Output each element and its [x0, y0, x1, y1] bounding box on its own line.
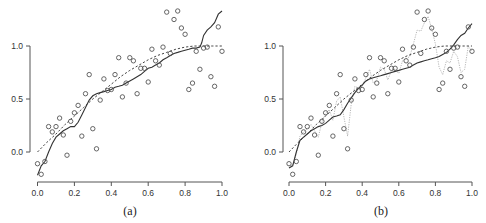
- data-point: [194, 49, 198, 53]
- smooth-fit-curve: [289, 24, 472, 168]
- data-point: [309, 116, 313, 120]
- x-tick-label: 0.4: [105, 188, 117, 198]
- data-point: [397, 80, 401, 84]
- data-point: [220, 49, 224, 53]
- data-point: [291, 172, 295, 176]
- data-point: [57, 116, 61, 120]
- x-tick-label: 1.0: [216, 188, 228, 198]
- x-tick-label: 0.0: [32, 188, 44, 198]
- data-point: [198, 67, 202, 71]
- fitted-estimate-curve: [38, 11, 223, 175]
- data-point: [135, 92, 139, 96]
- data-point: [294, 159, 298, 163]
- panel-b-curves: [289, 16, 472, 168]
- panel-b: 0.00.51.00.00.20.40.60.81.0 (b): [264, 9, 478, 218]
- data-point: [298, 124, 302, 128]
- data-point: [150, 47, 154, 51]
- x-tick-label: 1.0: [466, 188, 478, 198]
- data-point: [91, 127, 95, 131]
- x-tick-label: 0.8: [429, 188, 441, 198]
- data-point: [441, 81, 445, 85]
- data-point: [448, 67, 452, 71]
- y-tick-label: 1.0: [264, 41, 276, 51]
- data-point: [35, 162, 39, 166]
- panel-a: 0.00.51.00.00.20.40.60.81.0 (a): [11, 9, 228, 218]
- data-point: [216, 25, 220, 29]
- data-point: [87, 72, 91, 76]
- y-tick-label: 0.0: [11, 147, 23, 157]
- data-point: [120, 95, 124, 99]
- data-point: [46, 124, 50, 128]
- y-tick-label: 0.0: [264, 147, 276, 157]
- data-point: [430, 26, 434, 30]
- data-point: [98, 98, 102, 102]
- data-point: [305, 124, 309, 128]
- data-point: [419, 51, 423, 55]
- data-point: [378, 56, 382, 60]
- data-point: [153, 59, 157, 63]
- data-point: [312, 133, 316, 137]
- data-point: [209, 75, 213, 79]
- x-tick-label: 0.4: [356, 188, 368, 198]
- data-point: [415, 10, 419, 14]
- data-point: [338, 72, 342, 76]
- y-tick-label: 0.5: [264, 94, 276, 104]
- data-point: [102, 77, 106, 81]
- data-point: [426, 9, 430, 13]
- data-point: [113, 72, 117, 76]
- x-tick-label: 0.6: [393, 188, 405, 198]
- data-point: [353, 77, 357, 81]
- data-point: [411, 45, 415, 49]
- data-point: [165, 10, 169, 14]
- data-point: [459, 75, 463, 79]
- overfit-estimate-curve: [289, 16, 472, 168]
- data-point: [146, 80, 150, 84]
- x-tick-label: 0.2: [320, 188, 332, 198]
- panel-a-curves: [38, 11, 223, 175]
- y-tick-label: 1.0: [11, 41, 23, 51]
- data-point: [72, 111, 76, 115]
- data-point: [375, 81, 379, 85]
- data-point: [80, 134, 84, 138]
- data-point: [371, 95, 375, 99]
- data-point: [187, 87, 191, 91]
- data-point: [161, 45, 165, 49]
- data-point: [183, 32, 187, 36]
- x-tick-label: 0.8: [179, 188, 191, 198]
- data-point: [179, 26, 183, 30]
- data-point: [39, 172, 43, 176]
- data-point: [131, 59, 135, 63]
- data-point: [172, 17, 176, 21]
- data-point: [117, 56, 121, 60]
- data-point: [61, 133, 65, 137]
- x-tick-label: 0.6: [142, 188, 154, 198]
- data-point: [301, 130, 305, 134]
- data-point: [345, 147, 349, 151]
- data-point: [342, 127, 346, 131]
- data-point: [54, 124, 58, 128]
- y-tick-label: 0.5: [11, 94, 23, 104]
- data-point: [386, 92, 390, 96]
- data-point: [176, 9, 180, 13]
- data-point: [463, 84, 467, 88]
- data-point: [367, 56, 371, 60]
- data-point: [331, 134, 335, 138]
- panel-a-caption: (a): [123, 204, 136, 218]
- data-point: [212, 84, 216, 88]
- data-point: [94, 147, 98, 151]
- panel-a-scatter-points: [35, 9, 224, 177]
- panel-b-caption: (b): [374, 204, 388, 218]
- panel-b-scatter-points: [287, 9, 474, 177]
- data-point: [287, 162, 291, 166]
- data-point: [404, 59, 408, 63]
- figure: 0.00.51.00.00.20.40.60.81.0 (a) 0.00.51.…: [0, 0, 486, 223]
- data-point: [50, 130, 54, 134]
- x-tick-label: 0.2: [68, 188, 80, 198]
- panel-b-axes: 0.00.51.00.00.20.40.60.81.0: [264, 41, 478, 198]
- data-point: [327, 103, 331, 107]
- data-point: [437, 87, 441, 91]
- data-point: [83, 92, 87, 96]
- x-tick-label: 0.0: [283, 188, 295, 198]
- data-point: [334, 92, 338, 96]
- data-point: [65, 153, 69, 157]
